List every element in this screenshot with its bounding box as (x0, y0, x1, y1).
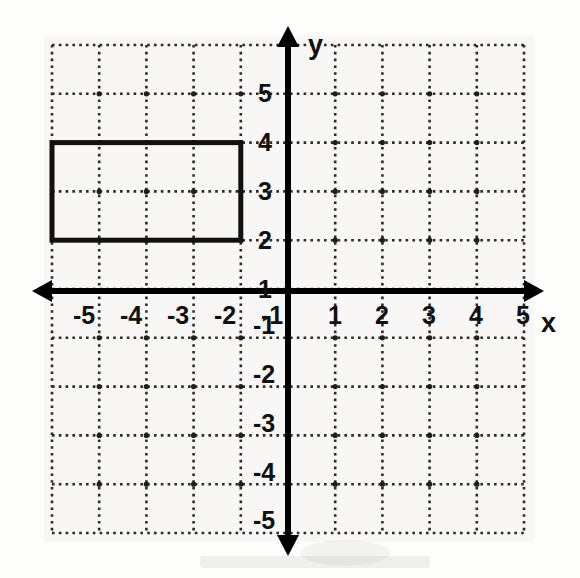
x-tick-label-5: 5 (516, 303, 530, 328)
x-tick-label-neg-5: -5 (73, 303, 95, 328)
x-tick-label-4: 4 (469, 303, 483, 328)
x-axis-label: x (541, 310, 556, 337)
x-tick-label-neg-3: -3 (167, 303, 189, 328)
y-tick-label-4: 4 (258, 130, 272, 155)
x-tick-label-neg-4: -4 (120, 303, 142, 328)
y-tick-label-3: 3 (258, 179, 272, 204)
x-tick-label-2: 2 (375, 303, 389, 328)
y-tick-label-2: 2 (258, 228, 272, 253)
plotted-rectangle (0, 0, 580, 578)
x-tick-label-neg-1: -1 (261, 303, 283, 328)
y-tick-label-neg-5: -5 (253, 508, 275, 533)
x-tick-label-1: 1 (328, 303, 342, 328)
x-tick-label-3: 3 (422, 303, 436, 328)
x-tick-label-neg-2: -2 (214, 303, 236, 328)
y-tick-label-neg-4: -4 (253, 460, 275, 485)
y-tick-label-5: 5 (258, 81, 272, 106)
coordinate-plane-figure: 5 4 3 2 1 -1 -2 -3 -4 -5 -5 -4 -3 -2 -1 … (0, 0, 580, 578)
y-tick-label-neg-3: -3 (253, 411, 275, 436)
y-tick-label-1: 1 (258, 277, 272, 302)
y-tick-label-neg-2: -2 (253, 362, 275, 387)
scan-artifact-band (200, 556, 430, 568)
y-axis-label: y (308, 32, 323, 59)
